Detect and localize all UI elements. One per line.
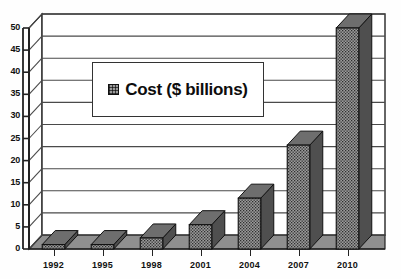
- y-tick-label-35: 35: [0, 88, 20, 98]
- bar-front-face: [287, 145, 310, 249]
- bar-side-face: [310, 131, 323, 249]
- bar-side-face: [359, 14, 372, 249]
- bar-2010: [336, 14, 372, 249]
- x-tick-label-1995: 1995: [78, 260, 127, 270]
- bar-chart: 05101520253035404550 1992199519982001200…: [0, 0, 401, 279]
- bar-2007: [287, 131, 323, 249]
- y-tick-label-10: 10: [0, 199, 20, 209]
- bar-front-face: [140, 238, 163, 249]
- bar-front-face: [336, 28, 359, 249]
- x-tick-label-1992: 1992: [29, 260, 78, 270]
- legend-swatch-icon: [108, 84, 119, 95]
- x-tick-1995: [103, 249, 104, 256]
- x-tick-1992: [54, 249, 55, 256]
- y-tick-label-25: 25: [0, 133, 20, 143]
- x-tick-2007: [299, 249, 300, 256]
- x-tick-2001: [201, 249, 202, 256]
- x-tick-label-1998: 1998: [127, 260, 176, 270]
- bar-2004: [238, 184, 274, 249]
- bar-front-face: [238, 198, 261, 249]
- y-tick-label-45: 45: [0, 44, 20, 54]
- y-tick-label-5: 5: [0, 221, 20, 231]
- y-tick-label-15: 15: [0, 177, 20, 187]
- y-tick-label-30: 30: [0, 110, 20, 120]
- x-tick-label-2010: 2010: [323, 260, 372, 270]
- x-tick-2010: [348, 249, 349, 256]
- x-tick-1998: [152, 249, 153, 256]
- chart-legend: Cost ($ billions): [92, 62, 264, 117]
- x-tick-label-2001: 2001: [176, 260, 225, 270]
- legend-label: Cost ($ billions): [125, 80, 247, 100]
- x-tick-2004: [250, 249, 251, 256]
- y-tick-label-50: 50: [0, 22, 20, 32]
- chart-canvas: [0, 0, 401, 279]
- x-tick-label-2004: 2004: [225, 260, 274, 270]
- y-tick-label-40: 40: [0, 66, 20, 76]
- x-tick-label-2007: 2007: [274, 260, 323, 270]
- y-tick-label-0: 0: [0, 243, 20, 253]
- y-tick-label-20: 20: [0, 155, 20, 165]
- bar-front-face: [189, 225, 212, 249]
